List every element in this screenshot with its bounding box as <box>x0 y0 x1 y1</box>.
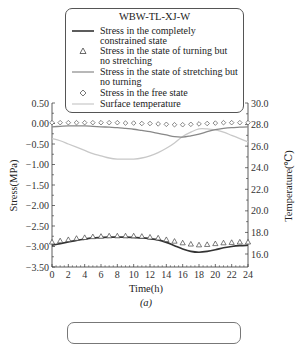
svg-text:0.00: 0.00 <box>32 118 50 129</box>
figure-caption: (a) <box>0 297 292 308</box>
series <box>49 120 250 252</box>
svg-text:10: 10 <box>129 269 139 280</box>
diamond-marker-icon <box>70 88 96 98</box>
svg-text:28.0: 28.0 <box>251 119 269 130</box>
svg-text:26.0: 26.0 <box>251 141 269 152</box>
triangle-marker-icon <box>70 46 96 56</box>
svg-text:6: 6 <box>99 269 104 280</box>
svg-text:22.0: 22.0 <box>251 184 269 195</box>
svg-text:22: 22 <box>227 269 237 280</box>
svg-text:−1.00: −1.00 <box>26 159 49 170</box>
legend: WBW-TL-XJ-W Stress in the completelycons… <box>65 8 244 113</box>
svg-text:0: 0 <box>50 269 55 280</box>
svg-text:16: 16 <box>178 269 188 280</box>
svg-text:24.0: 24.0 <box>251 162 269 173</box>
svg-text:20.0: 20.0 <box>251 205 269 216</box>
svg-text:0.50: 0.50 <box>32 98 50 109</box>
svg-text:−2.50: −2.50 <box>26 221 49 232</box>
svg-text:8: 8 <box>115 269 120 280</box>
svg-text:2: 2 <box>66 269 71 280</box>
svg-text:12: 12 <box>145 269 155 280</box>
svg-text:18.0: 18.0 <box>251 227 269 238</box>
svg-text:16.0: 16.0 <box>251 249 269 260</box>
svg-text:−1.50: −1.50 <box>26 180 49 191</box>
gray-line-icon <box>70 67 96 77</box>
svg-text:−0.50: −0.50 <box>26 139 49 150</box>
dark-line-icon <box>70 26 96 36</box>
svg-text:−3.00: −3.00 <box>26 241 49 252</box>
light-line-icon <box>70 99 96 109</box>
svg-text:−2.00: −2.00 <box>26 200 49 211</box>
svg-text:24: 24 <box>243 269 253 280</box>
y2-axis-label: Temperature(℃) <box>282 141 294 231</box>
svg-text:30.0: 30.0 <box>251 98 269 109</box>
next-panel-legend-box <box>67 322 241 344</box>
svg-text:14: 14 <box>161 269 171 280</box>
svg-text:18: 18 <box>194 269 204 280</box>
x-axis-label: Time(h) <box>0 283 292 294</box>
svg-text:−3.50: −3.50 <box>26 262 49 273</box>
legend-title: WBW-TL-XJ-W <box>66 11 243 22</box>
svg-text:20: 20 <box>210 269 220 280</box>
svg-text:4: 4 <box>82 269 87 280</box>
y-axis-label: Stress(MPa) <box>8 151 19 221</box>
